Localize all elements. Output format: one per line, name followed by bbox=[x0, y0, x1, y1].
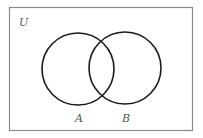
universe-frame bbox=[10, 8, 193, 131]
universe-label: U bbox=[19, 16, 29, 29]
set-a-label: A bbox=[74, 112, 83, 125]
set-b-label: B bbox=[121, 112, 130, 125]
venn-diagram: U A B bbox=[0, 0, 203, 138]
